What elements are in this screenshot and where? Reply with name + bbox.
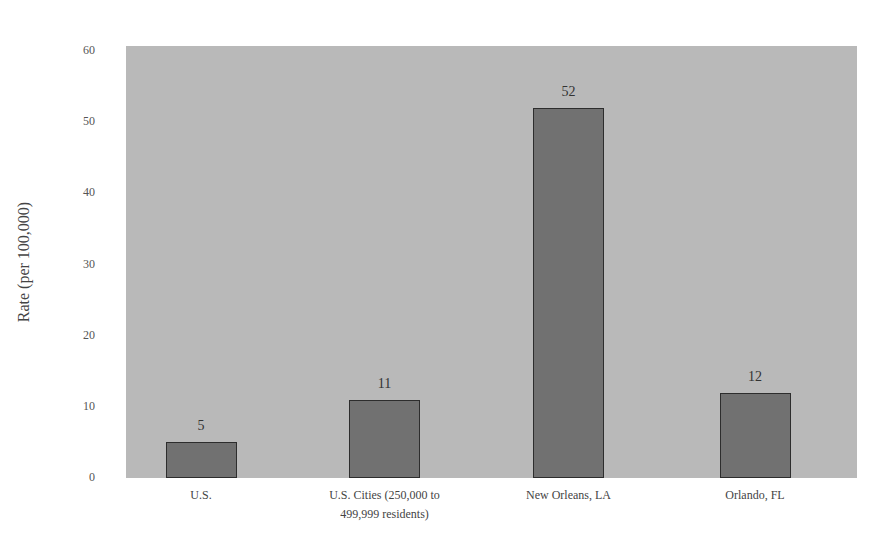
bar — [720, 393, 791, 478]
y-tick-label: 0 — [55, 470, 95, 485]
bar — [166, 442, 237, 478]
y-tick-label: 60 — [55, 43, 95, 58]
y-tick-label: 30 — [55, 257, 95, 272]
y-tick-label: 10 — [55, 399, 95, 414]
x-category-label: Orlando, FL — [665, 486, 845, 505]
bar-value-label: 5 — [161, 418, 241, 434]
y-tick-label: 20 — [55, 328, 95, 343]
x-category-label: New Orleans, LA — [479, 486, 659, 505]
x-category-label: U.S. Cities (250,000 to499,999 residents… — [295, 486, 475, 524]
bar-chart: Rate (per 100,000) 0102030405060 5U.S.11… — [0, 0, 890, 540]
bar — [349, 400, 420, 478]
x-category-label: U.S. — [111, 486, 291, 505]
y-axis-label: Rate (per 100,000) — [15, 202, 33, 322]
bar-value-label: 11 — [345, 376, 425, 392]
bar-value-label: 12 — [715, 369, 795, 385]
y-tick-label: 50 — [55, 114, 95, 129]
bar-value-label: 52 — [529, 84, 609, 100]
bar — [533, 108, 604, 478]
y-tick-label: 40 — [55, 185, 95, 200]
